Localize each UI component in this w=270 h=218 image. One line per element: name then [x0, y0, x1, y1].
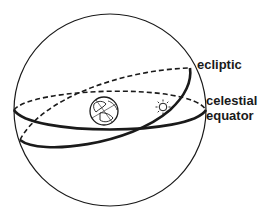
earth-icon	[90, 97, 118, 125]
celestial-equator-label-line2: equator	[206, 109, 254, 122]
sun-icon	[156, 100, 171, 115]
ecliptic-label: ecliptic	[197, 58, 242, 71]
celestial-equator-label-line1: celestial	[206, 94, 257, 107]
